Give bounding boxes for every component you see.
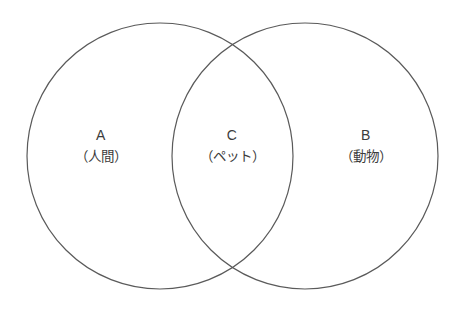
region-key-c: C xyxy=(172,128,292,142)
region-key-a: A xyxy=(41,128,161,142)
region-name-c: （ペット） xyxy=(172,150,292,164)
region-name-a: （人間） xyxy=(41,150,161,164)
region-label-a: A （人間） xyxy=(41,128,161,164)
region-name-b: （動物） xyxy=(306,150,426,164)
region-label-c: C （ペット） xyxy=(172,128,292,164)
region-key-b: B xyxy=(306,128,426,142)
region-label-b: B （動物） xyxy=(306,128,426,164)
venn-diagram: A （人間） C （ペット） B （動物） xyxy=(0,0,462,323)
